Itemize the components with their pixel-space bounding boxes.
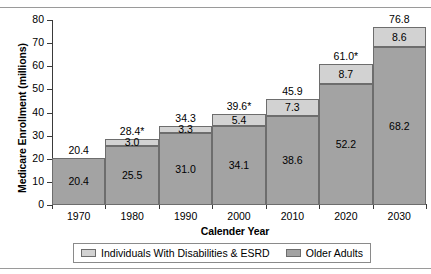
- x-tick-label: 1970: [52, 210, 105, 222]
- y-tick-label: 40: [32, 106, 44, 118]
- bar-segment-value: 25.5: [122, 170, 142, 181]
- bar-total-label: 45.9: [282, 85, 302, 97]
- y-axis-title: Medicare Enrollment (millions): [16, 18, 28, 218]
- y-tick-label: 10: [32, 175, 44, 187]
- bar-group[interactable]: 25.53.028.4*: [105, 139, 158, 205]
- y-tick: 50: [47, 89, 52, 90]
- bar-segment-disabilities-esrd[interactable]: 8.6: [373, 27, 426, 47]
- legend-label: Older Adults: [306, 247, 363, 259]
- y-tick-label: 0: [38, 198, 44, 210]
- x-tick-label: 2000: [212, 210, 265, 222]
- chart-legend: Individuals With Disabilities & ESRDOlde…: [73, 243, 371, 263]
- x-tick: [426, 204, 427, 209]
- bar-total-label: 28.4*: [120, 125, 145, 137]
- y-tick-label: 20: [32, 152, 44, 164]
- bar-segment-disabilities-esrd[interactable]: 7.3: [266, 99, 319, 116]
- bar-segment-older-adults[interactable]: 20.4: [52, 158, 105, 205]
- bar-segment-older-adults[interactable]: 31.0: [159, 133, 212, 205]
- y-tick: 40: [47, 113, 52, 114]
- chart-figure: Medicare Enrollment (millions) Calender …: [0, 0, 431, 274]
- bar-segment-value: 38.6: [282, 155, 302, 166]
- legend-label: Individuals With Disabilities & ESRD: [101, 247, 270, 259]
- bar-segment-value: 5.4: [232, 115, 247, 126]
- x-tick-label: 1980: [105, 210, 158, 222]
- bar-segment-value: 3.0: [125, 137, 140, 148]
- y-tick-label: 60: [32, 59, 44, 71]
- bar-segment-older-adults[interactable]: 38.6: [266, 116, 319, 205]
- bar-segment-value: 7.3: [285, 102, 300, 113]
- bar-segment-disabilities-esrd[interactable]: 3.3: [159, 126, 212, 134]
- bar-segment-older-adults[interactable]: 68.2: [373, 47, 426, 205]
- bar-group[interactable]: 34.15.439.6*: [212, 114, 265, 205]
- y-tick-label: 70: [32, 36, 44, 48]
- bar-total-label: 61.0*: [334, 50, 359, 62]
- x-tick-label: 2020: [319, 210, 372, 222]
- bar-segment-value: 8.6: [392, 32, 407, 43]
- y-tick: 30: [47, 136, 52, 137]
- plot-area: 01020304050607080 1970198019902000201020…: [52, 20, 426, 205]
- bar-total-label: 34.3: [175, 112, 195, 124]
- y-tick: 60: [47, 66, 52, 67]
- bar-group[interactable]: 52.28.761.0*: [319, 64, 372, 205]
- bar-total-label: 20.4: [68, 144, 88, 156]
- legend-swatch-icon: [286, 249, 301, 257]
- legend-swatch-icon: [81, 249, 96, 257]
- bar-group[interactable]: 68.28.676.8: [373, 27, 426, 205]
- bar-segment-value: 31.0: [175, 164, 195, 175]
- bar-total-label: 76.8: [389, 13, 409, 25]
- bar-segment-older-adults[interactable]: 52.2: [319, 84, 372, 205]
- bar-segment-value: 20.4: [68, 176, 88, 187]
- y-tick-label: 80: [32, 13, 44, 25]
- x-tick-label: 2010: [266, 210, 319, 222]
- y-tick-label: 50: [32, 82, 44, 94]
- bar-segment-disabilities-esrd[interactable]: 3.0: [105, 139, 158, 146]
- bar-segment-older-adults[interactable]: 34.1: [212, 126, 265, 205]
- x-axis-title: Calender Year: [40, 225, 430, 237]
- x-tick-label: 1990: [159, 210, 212, 222]
- bar-segment-value: 8.7: [339, 69, 354, 80]
- bar-group[interactable]: 20.420.4: [52, 158, 105, 205]
- bar-segment-value: 3.3: [178, 124, 193, 135]
- bar-segment-older-adults[interactable]: 25.5: [105, 146, 158, 205]
- top-divider-rule: [0, 7, 431, 8]
- bar-segment-disabilities-esrd[interactable]: 5.4: [212, 114, 265, 126]
- legend-entry[interactable]: Individuals With Disabilities & ESRD: [81, 247, 270, 259]
- bar-segment-value: 34.1: [229, 160, 249, 171]
- bar-segment-value: 52.2: [336, 139, 356, 150]
- bar-segment-value: 68.2: [389, 121, 409, 132]
- bar-segment-disabilities-esrd[interactable]: 8.7: [319, 64, 372, 84]
- y-tick-label: 30: [32, 129, 44, 141]
- y-tick: 70: [47, 43, 52, 44]
- bottom-divider-rule: [0, 268, 431, 269]
- y-tick: 80: [47, 20, 52, 21]
- bar-group[interactable]: 38.67.345.9: [266, 99, 319, 205]
- x-tick-label: 2030: [373, 210, 426, 222]
- legend-entry[interactable]: Older Adults: [286, 247, 363, 259]
- bar-group[interactable]: 31.03.334.3: [159, 126, 212, 205]
- bar-total-label: 39.6*: [227, 100, 252, 112]
